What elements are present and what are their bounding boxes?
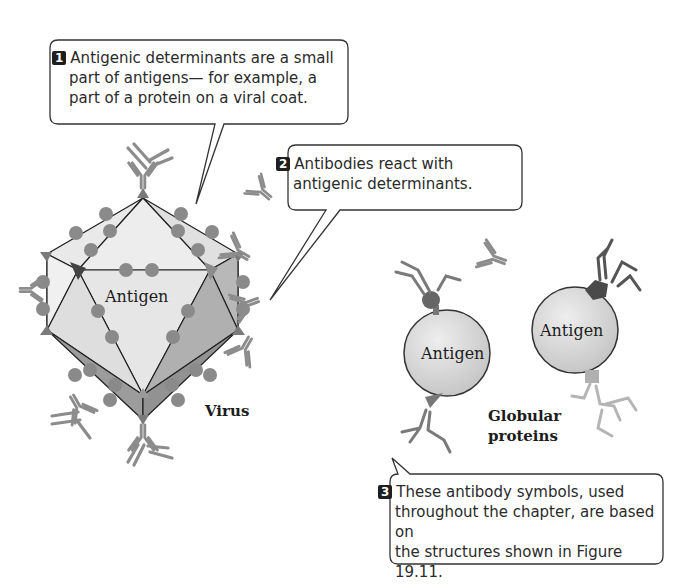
callout-3-number: 3: [378, 485, 392, 499]
virus-label: Virus: [205, 402, 249, 420]
callout-2-line-1: Antibodies react with: [294, 155, 453, 173]
callout-3-line-2: throughout the chapter, are based on: [378, 502, 668, 542]
callout-1-line-2: part of antigens— for example, a: [52, 68, 352, 88]
virus: [36, 188, 250, 425]
callout-3-line-1: These antibody symbols, used: [396, 483, 624, 501]
globular-antigen-label-1: Antigen: [421, 344, 484, 363]
callout-3: 3These antibody symbols, used throughout…: [378, 482, 668, 582]
callout-3-line-3: the structures shown in Figure 19.11.: [378, 542, 668, 582]
globular-proteins-label: Globular proteins: [488, 406, 561, 446]
virus-antigen-label: Antigen: [105, 287, 168, 306]
callout-2-line-2: antigenic determinants.: [276, 174, 526, 194]
callout-1-line-3: part of a protein on a viral coat.: [52, 88, 352, 108]
callout-1-line-1: Antigenic determinants are a small: [70, 49, 333, 67]
callout-2: 2Antibodies react with antigenic determi…: [276, 154, 526, 194]
callout-2-number: 2: [276, 157, 290, 171]
callout-1-number: 1: [52, 51, 66, 65]
callout-1: 1Antigenic determinants are a small part…: [52, 48, 352, 108]
globular-proteins-line-2: proteins: [488, 426, 561, 446]
globular-antigen-label-2: Antigen: [540, 321, 603, 340]
globular-proteins-line-1: Globular: [488, 406, 561, 426]
